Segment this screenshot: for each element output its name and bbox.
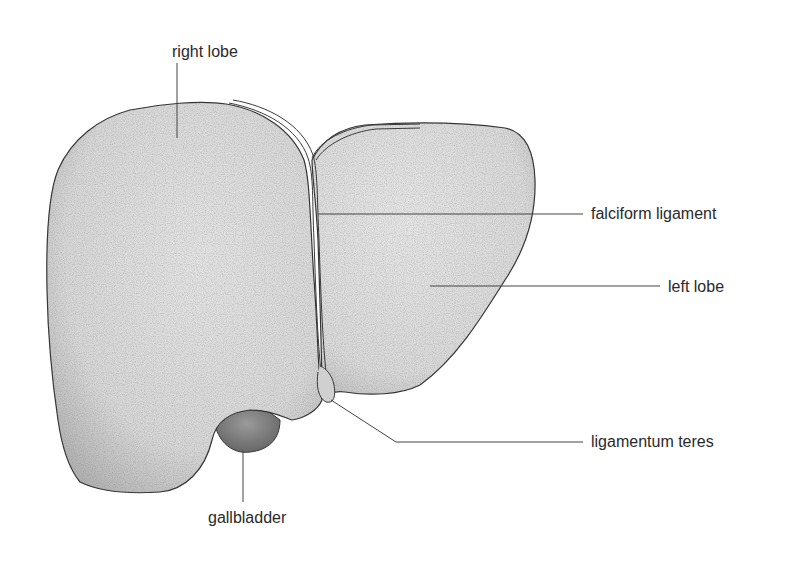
label-gallbladder: gallbladder bbox=[208, 510, 286, 526]
label-falciform-ligament: falciform ligament bbox=[591, 206, 716, 222]
label-left-lobe: left lobe bbox=[668, 279, 724, 295]
label-right-lobe: right lobe bbox=[172, 44, 238, 60]
left-lobe-shape bbox=[312, 123, 535, 398]
label-ligamentum-teres: ligamentum teres bbox=[591, 434, 714, 450]
liver-diagram: right lobe falciform ligament left lobe … bbox=[0, 0, 799, 562]
leader-ligamentum-teres bbox=[331, 400, 583, 442]
right-lobe-shape bbox=[47, 102, 322, 492]
